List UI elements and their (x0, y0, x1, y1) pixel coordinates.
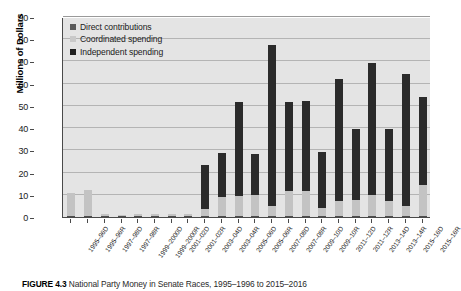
y-tick-label-0: 0 (2, 213, 28, 223)
bar-1999–2000D[interactable] (134, 214, 142, 217)
bar-segment (218, 153, 226, 197)
bar-segment (402, 206, 410, 216)
x-tick-mark (288, 219, 289, 223)
x-tick-mark (422, 219, 423, 223)
bar-segment (251, 154, 259, 195)
bar-segment (134, 216, 142, 217)
y-tick-mark-10 (30, 196, 34, 197)
bar-1997–98D[interactable] (101, 214, 109, 217)
bar-segment (235, 102, 243, 196)
y-tick-mark-50 (30, 107, 34, 108)
bar-1999–2000R[interactable] (151, 214, 159, 217)
x-tick-mark (154, 219, 155, 223)
x-tick-mark (254, 219, 255, 223)
y-tick-label-30: 30 (2, 146, 28, 156)
bar-1995–96R[interactable] (84, 190, 92, 217)
bar-segment (101, 216, 109, 217)
bar-2001–02D[interactable] (168, 214, 176, 217)
legend-item-independent[interactable]: Independent spending (70, 46, 163, 57)
y-axis: 0102030405060708090 (0, 0, 62, 220)
y-tick-mark-30 (30, 151, 34, 152)
y-tick-mark-70 (30, 62, 34, 63)
bar-segment (402, 216, 410, 217)
legend-item-direct[interactable]: Direct contributions (70, 21, 163, 32)
bar-1995–96D[interactable] (67, 193, 75, 217)
bar-2009–10R[interactable] (318, 152, 326, 217)
bar-2009–10D[interactable] (302, 101, 310, 217)
legend-item-label: Independent spending (80, 47, 163, 57)
bar-segment (151, 216, 159, 217)
bar-segment (318, 208, 326, 216)
bar-segment (385, 216, 393, 217)
x-tick-mark (271, 219, 272, 223)
bar-segment (302, 101, 310, 191)
bar-segment (268, 206, 276, 216)
bar-2005–06R[interactable] (251, 154, 259, 217)
bar-segment (368, 63, 376, 195)
bar-segment (218, 197, 226, 216)
bar-segment (368, 195, 376, 215)
bar-segment (335, 79, 343, 201)
x-tick-mark (355, 219, 356, 223)
bar-segment (352, 216, 360, 217)
bar-segment (84, 216, 92, 217)
bar-2005–06D[interactable] (235, 102, 243, 217)
bar-2015–16R[interactable] (419, 97, 427, 217)
y-tick-mark-20 (30, 174, 34, 175)
x-tick-mark (104, 219, 105, 223)
x-tick-mark (221, 219, 222, 223)
x-tick-mark (321, 219, 322, 223)
bar-segment (67, 193, 75, 216)
legend-swatch-icon (70, 36, 76, 42)
legend-item-coordinated[interactable]: Coordinated spending (70, 34, 163, 45)
bar-segment (285, 191, 293, 216)
bar-2007–08R[interactable] (285, 102, 293, 217)
x-tick-mark (405, 219, 406, 223)
bar-segment (201, 209, 209, 216)
x-tick-mark (238, 219, 239, 223)
bar-segment (419, 97, 427, 185)
bar-segment (385, 201, 393, 216)
figure-caption-text: National Party Money in Senate Races, 19… (69, 279, 307, 289)
bar-segment (118, 216, 126, 217)
bar-segment (302, 216, 310, 217)
bar-segment (302, 191, 310, 216)
bar-2011–12D[interactable] (335, 79, 343, 217)
y-tick-label-20: 20 (2, 169, 28, 179)
bar-2011–12R[interactable] (352, 129, 360, 217)
y-tick-mark-40 (30, 129, 34, 130)
x-tick-mark (187, 219, 188, 223)
y-tick-mark-80 (30, 40, 34, 41)
gridline-90 (63, 16, 430, 17)
bar-segment (268, 45, 276, 206)
bar-segment (251, 195, 259, 216)
bar-2007–08D[interactable] (268, 45, 276, 217)
chart-legend: Direct contributionsCoordinated spending… (70, 21, 163, 59)
bar-segment (402, 74, 410, 206)
bar-2001–02R[interactable] (184, 214, 192, 217)
bar-2003–04R[interactable] (218, 153, 226, 217)
bar-2013–14D[interactable] (368, 63, 376, 217)
figure-caption-label: FIGURE 4.3 (22, 279, 67, 289)
bar-segment (184, 216, 192, 217)
bar-segment (67, 216, 75, 217)
bar-segment (285, 216, 293, 217)
y-tick-label-10: 10 (2, 191, 28, 201)
x-tick-mark (338, 219, 339, 223)
x-tick-mark (171, 219, 172, 223)
bar-segment (84, 190, 92, 215)
bar-segment (168, 216, 176, 217)
bar-segment (419, 185, 427, 216)
bar-1997–98R[interactable] (118, 215, 126, 217)
x-tick-mark (137, 219, 138, 223)
bar-2015–16D[interactable] (402, 74, 410, 217)
legend-swatch-icon (70, 49, 76, 55)
bar-segment (352, 129, 360, 200)
y-tick-mark-0 (30, 218, 34, 219)
bar-2013–14R[interactable] (385, 129, 393, 217)
bar-segment (268, 216, 276, 217)
bar-2003–04D[interactable] (201, 165, 209, 217)
bar-segment (419, 216, 427, 217)
bar-segment (201, 165, 209, 209)
